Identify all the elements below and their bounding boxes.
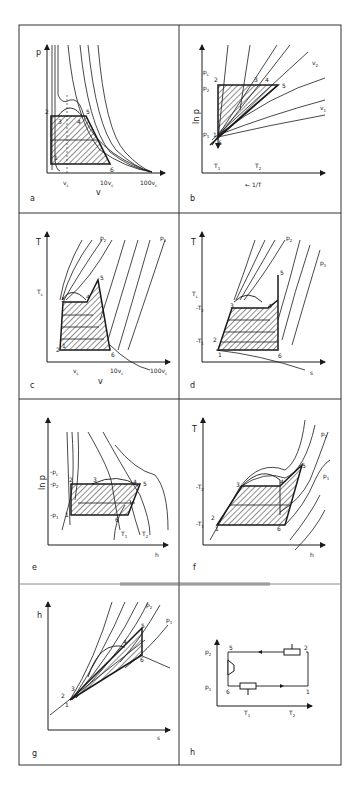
y-axis-label: h (37, 611, 42, 620)
saturation-dome (58, 108, 82, 116)
point-6: 6 (110, 166, 114, 173)
curve-label-t1: T1 (120, 530, 128, 539)
y-tick-p2: p2 (203, 84, 210, 93)
x-axis-label: ← 1/T (245, 181, 262, 188)
panel-label-c: c (30, 381, 34, 390)
curve-label-v2: v2 (312, 59, 319, 68)
point-5: 5 (229, 644, 233, 651)
point-1: 1 (215, 525, 219, 532)
x-axis-label: v (96, 188, 101, 197)
heat-exchanger-high (284, 649, 300, 655)
panel-g: h s 2 1 3 4 5 6 p2 p1 g (32, 601, 173, 758)
panel-f: T h -T2 -T1 2 1 3 4 5 6 p2 p1 f (191, 418, 330, 572)
panel-label-b: b (190, 194, 195, 203)
scan-smudge (120, 582, 270, 586)
saturation-dome (62, 293, 86, 301)
y-axis-label: T (190, 238, 196, 247)
point-1: 1 (65, 511, 69, 518)
point-2: 2 (56, 346, 60, 353)
expander-icon (228, 660, 234, 675)
panel-label-f: f (193, 563, 196, 572)
point-3: 3 (61, 296, 65, 303)
point-5: 5 (86, 108, 90, 115)
heat-exchanger-low (240, 683, 256, 689)
point-4: 4 (280, 478, 284, 485)
point-2: 2 (69, 476, 73, 483)
curve-label-p1: p1 (323, 472, 330, 481)
right-line (256, 652, 308, 686)
point-4: 4 (133, 478, 137, 485)
y-tick-t2: -T2 (196, 304, 204, 313)
panel-label-d: d (190, 381, 195, 390)
point-4: 4 (77, 118, 81, 125)
cycle-area (71, 484, 140, 515)
point-5: 5 (100, 274, 104, 281)
y-tick-p1: -p1 (50, 511, 59, 520)
cycle-loop (228, 652, 308, 686)
y-axis-label: T (191, 425, 197, 434)
curve-label-p1: p1 (160, 234, 167, 243)
x-axis-label: v (98, 377, 103, 386)
panel-b: ln p ← 1/T pc p2 p1 2 3 4 5 1 6 v2 v1 T1… (190, 45, 327, 203)
point-5: 5 (282, 82, 286, 89)
y-tick-tc: Tc (36, 288, 43, 297)
x-axis-label: h (310, 551, 314, 558)
flow-arrow-icon (280, 684, 284, 688)
point-6: 6 (218, 139, 222, 146)
panel-label-a: a (30, 194, 35, 203)
cycle-area (70, 628, 142, 700)
point-6: 6 (278, 352, 282, 359)
curve-label-t2: T2 (141, 530, 149, 539)
point-5: 5 (302, 462, 306, 469)
x-axis-label: s (310, 369, 313, 376)
point-6: 6 (277, 525, 281, 532)
point-4: 4 (123, 638, 127, 645)
curve-label-p1: p1 (320, 259, 327, 268)
y-axis-label: ln p (38, 475, 47, 490)
point-4: 4 (86, 293, 90, 300)
point-2: 2 (214, 76, 218, 83)
point-6: 6 (111, 351, 115, 358)
point-1: 1 (62, 342, 66, 349)
x-tick-vc: vc (73, 367, 79, 376)
flow-arrow-icon (258, 650, 262, 654)
curve-label-p1: p1 (166, 616, 173, 625)
x-tick-vc: vc (63, 179, 69, 188)
point-1: 1 (65, 701, 69, 708)
y-axis-label: T (35, 238, 41, 247)
point-1: 1 (54, 154, 58, 161)
point-3: 3 (236, 481, 240, 488)
x-tick-10vc: 10vc (100, 179, 113, 188)
panel-h: p2 p1 5 2 1 6 T1 T2 h (190, 640, 312, 757)
x-tick-t1: T1 (213, 162, 221, 171)
y-tick-tc: Tc (191, 290, 198, 299)
y-tick-pc: -pc (50, 468, 58, 477)
y-tick-pc: pc (203, 68, 209, 77)
curve-label-p2: p2 (321, 430, 328, 439)
panel-d: T s Tc -T2 -T1 2 1 3 4 5 6 p2 p1 d (190, 232, 327, 390)
point-1: 1 (218, 351, 222, 358)
panel-e: ln p h -pc -p2 -p1 2 1 3 4 5 6 T1 T2 e (32, 418, 168, 572)
point-3: 3 (93, 476, 97, 483)
x-tick-100vc: 100vc (150, 367, 167, 376)
x-tick-t2: T2 (254, 162, 262, 171)
point-5: 5 (280, 269, 284, 276)
point-1: 1 (306, 688, 310, 695)
curve-label-p2: p2 (146, 601, 153, 610)
isobars (50, 602, 170, 715)
point-3: 3 (254, 76, 258, 83)
y-tick-p1: p1 (203, 130, 210, 139)
point-3: 3 (58, 118, 62, 125)
point-2: 2 (213, 336, 217, 343)
point-5: 5 (143, 480, 147, 487)
isobars (210, 420, 330, 550)
point-2: 2 (61, 692, 65, 699)
x-tick-t2: T2 (288, 709, 296, 718)
point-1: 1 (213, 131, 217, 138)
point-2: 2 (211, 514, 215, 521)
thermodynamic-cycle-figure: p v 2 3 4 5 1 6 vc 10vc 100vc a ln p ← 1… (0, 0, 360, 785)
curve-label-v1: v1 (320, 104, 327, 113)
point-2: 2 (45, 108, 49, 115)
y-tick-p2: p2 (205, 648, 212, 657)
panel-a: p v 2 3 4 5 1 6 vc 10vc 100vc a (30, 45, 165, 203)
